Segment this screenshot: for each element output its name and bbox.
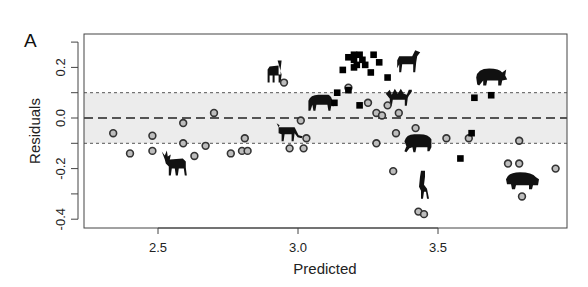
circle-point (180, 140, 187, 147)
circle-point (211, 110, 218, 117)
circle-point (373, 140, 380, 147)
x-tick-label: 3.5 (429, 240, 447, 255)
circle-point (516, 137, 523, 144)
circle-point (395, 110, 402, 117)
giraffe-icon (419, 171, 429, 199)
square-point (368, 69, 375, 76)
moose-icon (162, 151, 187, 176)
y-tick-label: -0.2 (53, 157, 68, 179)
x-axis-label: Predicted (293, 260, 356, 277)
llama-icon (268, 60, 282, 82)
circle-point (393, 130, 400, 137)
circle-point (127, 150, 134, 157)
y-tick-label: -0.4 (53, 208, 68, 230)
circle-point (421, 211, 428, 218)
residuals-plot: A 2.53.03.5 -0.4-0.20.00.2 Predicted Res… (0, 0, 588, 287)
circle-point (379, 112, 386, 119)
square-point (468, 130, 475, 137)
circle-point (244, 147, 251, 154)
circle-point (149, 147, 156, 154)
circle-point (300, 145, 307, 152)
zebra-icon (397, 50, 420, 72)
circle-point (412, 125, 419, 132)
y-axis: -0.4-0.20.00.2 (53, 42, 78, 230)
square-point (384, 74, 391, 81)
circle-point (281, 79, 288, 86)
y-tick-label: 0.2 (53, 58, 68, 76)
panel-label: A (24, 30, 37, 51)
hippo-icon (506, 172, 539, 189)
circle-point (516, 160, 523, 167)
y-axis-label: Residuals (26, 98, 43, 164)
circle-point (303, 135, 310, 142)
square-point (457, 155, 464, 162)
circle-point (191, 153, 198, 160)
circle-point (552, 165, 559, 172)
circle-point (286, 145, 293, 152)
circle-point (297, 117, 304, 124)
rhino-icon (476, 69, 507, 86)
square-point (488, 92, 495, 99)
circle-point (384, 102, 391, 109)
bison-icon (404, 134, 431, 152)
square-point (471, 94, 478, 101)
square-point (370, 51, 377, 58)
circle-point (505, 160, 512, 167)
square-point (334, 89, 341, 96)
circle-point (443, 135, 450, 142)
circle-point (180, 120, 187, 127)
x-tick-label: 2.5 (149, 240, 167, 255)
circle-point (202, 142, 209, 149)
circle-point (227, 150, 234, 157)
square-point (356, 102, 363, 109)
circle-point (365, 99, 372, 106)
x-axis: 2.53.03.5 (149, 228, 447, 255)
circle-point (519, 193, 526, 200)
square-point (345, 87, 352, 94)
circle-point (149, 132, 156, 139)
circle-point (241, 135, 248, 142)
x-tick-label: 3.0 (289, 240, 307, 255)
square-point (331, 100, 338, 107)
y-tick-label: 0.0 (53, 109, 68, 127)
square-point (376, 59, 383, 66)
square-point (362, 62, 369, 69)
circle-point (390, 168, 397, 175)
circle-point (110, 130, 117, 137)
square-point (340, 67, 347, 74)
